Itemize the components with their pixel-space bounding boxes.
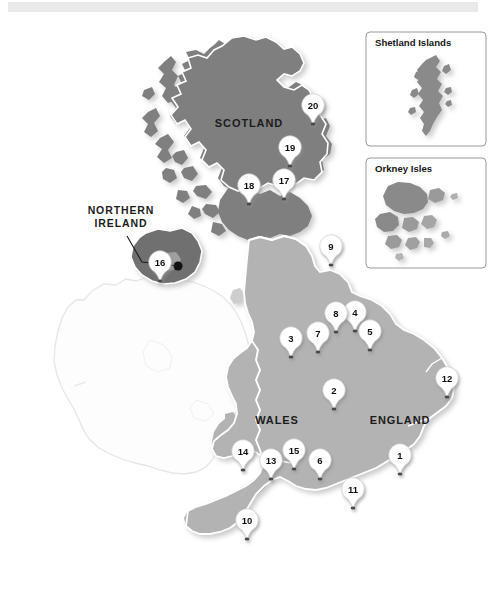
inset-shetland-islands[interactable]: Shetland Islands: [366, 32, 486, 146]
pin-14[interactable]: 14: [232, 440, 254, 472]
pin-tip-dot: [247, 202, 252, 205]
pin-tip-dot: [241, 468, 246, 471]
pin-tip-dot: [269, 477, 274, 480]
inset-orkney-box[interactable]: [366, 158, 486, 268]
pin-label: 19: [285, 142, 296, 153]
pin-label: 1: [397, 450, 403, 461]
pin-tip-dot: [289, 355, 294, 358]
pin-tip-dot: [329, 263, 334, 266]
pin-label: 2: [331, 385, 336, 396]
pin-tip-dot: [368, 348, 373, 351]
label-scotland: SCOTLAND: [215, 117, 283, 129]
pin-label: 11: [348, 484, 359, 495]
pin-label: 9: [328, 241, 333, 252]
pin-1[interactable]: 1: [389, 444, 411, 476]
pin-11[interactable]: 11: [342, 478, 364, 510]
pin-tip-dot: [245, 537, 250, 540]
pin-label: 7: [315, 328, 320, 339]
pin-9[interactable]: 9: [320, 235, 342, 267]
pin-label: 16: [155, 257, 166, 268]
inset-orkney-title: Orkney Isles: [375, 163, 432, 174]
pin-tip-dot: [334, 330, 339, 333]
uk-locations-map: SCOTLAND NORTHERN IRELAND WALES ENGLAND …: [0, 0, 492, 602]
pin-tip-dot: [311, 122, 316, 125]
pin-tip-dot: [316, 350, 321, 353]
inset-orkney-isles[interactable]: Orkney Isles: [366, 158, 486, 268]
pin-tip-dot: [353, 329, 358, 332]
pin-tip-dot: [282, 197, 287, 200]
pin-10[interactable]: 10: [236, 509, 258, 541]
pin-label: 3: [288, 333, 293, 344]
pin-label: 6: [317, 455, 322, 466]
label-northern-ireland-line2: IRELAND: [95, 217, 148, 229]
pin-tip-dot: [332, 407, 337, 410]
pin-tip-dot: [318, 477, 323, 480]
pin-label: 15: [289, 445, 300, 456]
pin-tip-dot: [351, 506, 356, 509]
pin-label: 5: [367, 326, 373, 337]
pin-label: 20: [308, 100, 319, 111]
pin-label: 18: [244, 180, 255, 191]
pin-label: 10: [242, 515, 253, 526]
pin-label: 8: [333, 308, 338, 319]
pin-tip-dot: [398, 472, 403, 475]
pin-label: 13: [266, 455, 277, 466]
label-england: ENGLAND: [370, 414, 431, 426]
inset-shetland-title: Shetland Islands: [375, 37, 451, 48]
pin-label: 14: [238, 446, 249, 457]
pin-tip-dot: [158, 279, 163, 282]
pin-tip-dot: [288, 164, 293, 167]
pin-tip-dot: [292, 467, 297, 470]
label-wales: WALES: [255, 414, 299, 426]
map-canvas: SCOTLAND NORTHERN IRELAND WALES ENGLAND …: [0, 0, 492, 602]
label-northern-ireland-line1: NORTHERN: [88, 204, 155, 216]
pin-tip-dot: [445, 395, 450, 398]
pin-label: 12: [442, 373, 453, 384]
pin-label: 4: [352, 307, 358, 318]
pin-label: 17: [279, 175, 290, 186]
scotland-region: [142, 36, 332, 240]
